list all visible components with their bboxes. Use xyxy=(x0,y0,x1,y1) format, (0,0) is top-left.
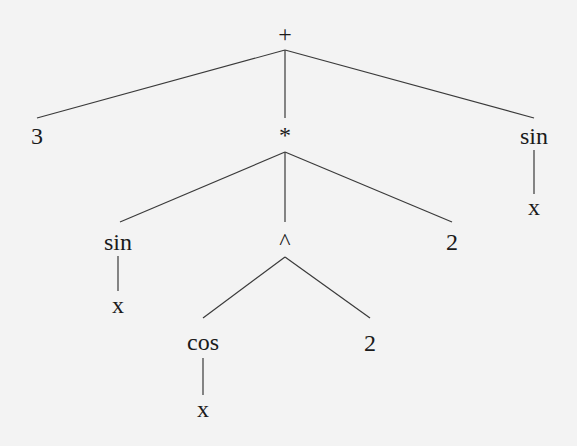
tree-edges xyxy=(0,0,577,446)
node-sin-right: sin xyxy=(520,124,548,148)
edge-pow-to-cos xyxy=(203,257,285,318)
node-three: 3 xyxy=(31,124,43,148)
edge-pow-to-two-pow xyxy=(285,257,370,318)
node-two-pow: 2 xyxy=(364,331,376,355)
node-two-mid: 2 xyxy=(446,230,458,254)
node-x-cos: x xyxy=(197,397,209,421)
node-times: * xyxy=(279,123,291,147)
node-cos: cos xyxy=(187,330,219,354)
expression-tree-diagram: + 3 * sin x sin ^ 2 x cos 2 x xyxy=(0,0,577,446)
edge-plus-to-three xyxy=(37,50,285,118)
edge-plus-to-sin-right xyxy=(285,50,534,118)
edge-times-to-sin-left xyxy=(120,152,285,222)
node-pow: ^ xyxy=(279,229,290,253)
edge-times-to-two-mid xyxy=(285,152,452,222)
node-x-left: x xyxy=(112,293,124,317)
node-x-right: x xyxy=(528,195,540,219)
node-sin-left: sin xyxy=(104,230,132,254)
node-plus: + xyxy=(278,22,292,46)
